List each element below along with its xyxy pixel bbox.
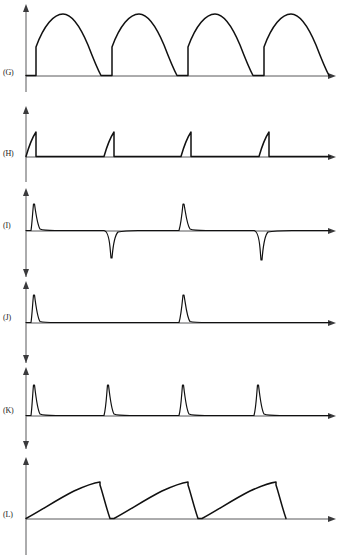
y-axis-arrow-bottom-I xyxy=(23,269,29,277)
y-axis-arrow-K xyxy=(23,367,29,375)
waveform-figure: (G) (H) (I) xyxy=(0,0,339,555)
waveform-panel-J: (J) xyxy=(0,277,339,363)
y-axis-arrow-bottom-K xyxy=(23,441,29,449)
waveform-panel-H: (H) xyxy=(0,92,339,182)
waveform-panel-G: (G) xyxy=(0,0,339,92)
waveform-plot-G xyxy=(0,0,339,92)
waveform-plot-J xyxy=(0,277,339,363)
waveform-panel-L: (L) xyxy=(0,449,339,555)
panel-label-I: (I) xyxy=(3,222,10,230)
panel-label-J: (J) xyxy=(3,314,11,322)
trace-H xyxy=(26,132,330,157)
waveform-plot-I xyxy=(0,182,339,277)
y-axis-arrow-G xyxy=(23,4,29,12)
trace-G xyxy=(26,14,329,76)
y-axis-arrow-I xyxy=(23,188,29,196)
trace-L xyxy=(26,482,286,519)
waveform-panel-K: (K) xyxy=(0,363,339,449)
y-axis-arrow-L xyxy=(23,457,29,465)
waveform-plot-L xyxy=(0,449,339,555)
y-axis-arrow-bottom-J xyxy=(23,355,29,363)
trace-I xyxy=(26,204,330,260)
y-axis-arrow-J xyxy=(23,281,29,289)
y-axis-arrow-H xyxy=(23,106,29,114)
waveform-panel-I: (I) xyxy=(0,182,339,277)
waveform-plot-K xyxy=(0,363,339,449)
x-axis-arrow-L xyxy=(328,516,336,522)
panel-label-H: (H) xyxy=(3,150,14,158)
panel-label-L: (L) xyxy=(3,511,13,519)
waveform-plot-H xyxy=(0,92,339,182)
trace-K xyxy=(26,385,330,416)
trace-J xyxy=(26,295,330,323)
panel-label-G: (G) xyxy=(3,69,14,77)
panel-label-K: (K) xyxy=(3,407,14,415)
